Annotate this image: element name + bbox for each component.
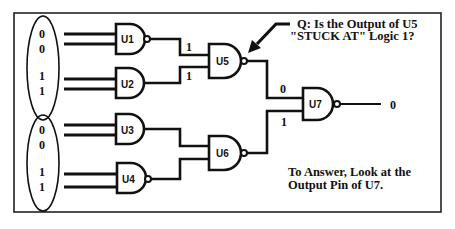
signal-u7-in-a: 0 [280, 82, 286, 96]
svg-text:U1: U1 [121, 34, 134, 45]
gate-u2: U2 [116, 68, 144, 98]
wire-u2-u5 [146, 67, 210, 83]
input-wires [64, 34, 117, 187]
svg-text:U4: U4 [122, 174, 135, 185]
signal-u7-out: 0 [390, 98, 396, 112]
gate-u1: U1 [116, 24, 150, 54]
svg-text:U2: U2 [121, 79, 134, 90]
answer-line-2: Output Pin of U7. [288, 178, 383, 192]
input-bottom-2: 0 [39, 138, 45, 152]
gate-u6: U6 [209, 136, 247, 170]
input-top-4: 1 [39, 84, 45, 98]
svg-text:U5: U5 [216, 56, 229, 67]
input-bottom-3: 1 [39, 165, 45, 179]
gate-u5: U5 [209, 44, 247, 78]
logic-circuit-diagram: 0 0 1 1 0 0 1 1 U1 U2 U3 U4 1 1 [0, 0, 455, 229]
wire-u6-u7 [248, 111, 304, 153]
input-top-2: 0 [39, 42, 45, 56]
svg-text:U6: U6 [216, 148, 229, 159]
signal-u7-in-b: 1 [281, 115, 287, 129]
gate-u3: U3 [116, 114, 144, 144]
wire-u1-u5 [151, 39, 210, 55]
wire-u3-u6 [146, 129, 210, 146]
signal-u5-in-a: 1 [186, 40, 192, 54]
arrow-icon [248, 24, 290, 53]
signal-u5-in-b: 1 [186, 69, 192, 83]
gate-u7: U7 [303, 88, 340, 120]
input-bottom-4: 1 [39, 180, 45, 194]
svg-text:U3: U3 [121, 125, 134, 136]
wire-u5-u7 [248, 61, 304, 98]
input-top-1: 0 [39, 27, 45, 41]
wire-u4-u6 [152, 159, 210, 179]
input-top-3: 1 [39, 69, 45, 83]
gate-u4: U4 [117, 163, 151, 193]
svg-text:U7: U7 [309, 99, 322, 110]
input-bottom-1: 0 [39, 123, 45, 137]
question-line-2: "STUCK AT" Logic 1? [290, 29, 414, 43]
answer-line-1: To Answer, Look at the [288, 165, 412, 179]
